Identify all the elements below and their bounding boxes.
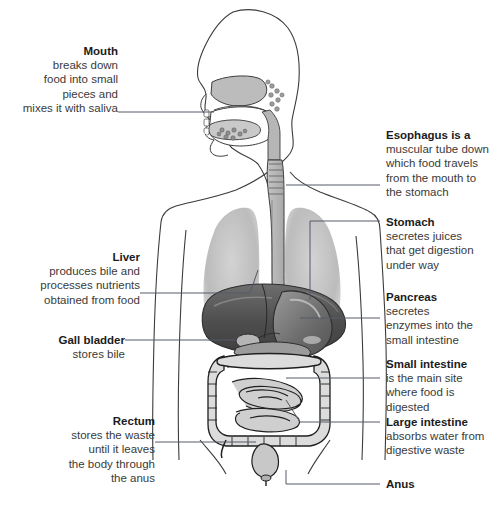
- callout-pancreas-line-3: small intestine: [386, 333, 501, 347]
- callout-mouth: Mouth breaks down food into small pieces…: [14, 44, 118, 115]
- callout-liver: Liver produces bile and processes nutrie…: [12, 250, 140, 307]
- anus: [261, 475, 271, 486]
- callout-large-intestine-line-2: digestive waste: [386, 443, 503, 457]
- callout-gall-bladder: Gall bladder stores bile: [12, 333, 125, 361]
- callout-stomach-line-2: that get digestion: [386, 243, 501, 257]
- callout-liver-line-3: obtained from food: [12, 293, 140, 307]
- callout-liver-line-1: produces bile and: [12, 264, 140, 278]
- callout-rectum-line-2: until it leaves: [12, 442, 155, 456]
- leader-anus: [286, 470, 380, 484]
- callout-rectum-line-3: the body through: [12, 457, 155, 471]
- callout-gall-bladder-title: Gall bladder: [12, 333, 125, 347]
- callout-esophagus-title: Esophagus is a: [386, 128, 501, 142]
- callout-small-intestine-line-2: where food is: [386, 385, 501, 399]
- callout-esophagus: Esophagus is a muscular tube down which …: [386, 128, 501, 199]
- callout-stomach-line-1: secretes juices: [386, 229, 501, 243]
- callout-liver-line-2: processes nutrients: [12, 278, 140, 292]
- callout-liver-title: Liver: [12, 250, 140, 264]
- callout-pancreas-title: Pancreas: [386, 290, 501, 304]
- diagram-canvas: Mouth breaks down food into small pieces…: [0, 0, 503, 507]
- callout-large-intestine-line-1: absorbs water from: [386, 429, 503, 443]
- callout-small-intestine: Small intestine is the main site where f…: [386, 357, 501, 414]
- callout-large-intestine: Large intestine absorbs water from diges…: [386, 415, 503, 458]
- callout-small-intestine-title: Small intestine: [386, 357, 501, 371]
- callout-mouth-title: Mouth: [14, 44, 118, 58]
- figure-caption: [0, 489, 503, 507]
- callout-small-intestine-line-3: digested: [386, 400, 501, 414]
- callout-stomach: Stomach secretes juices that get digesti…: [386, 215, 501, 272]
- callout-esophagus-line-4: the stomach: [386, 185, 501, 199]
- callout-large-intestine-title: Large intestine: [386, 415, 503, 429]
- callout-rectum-title: Rectum: [12, 414, 155, 428]
- callout-small-intestine-line-1: is the main site: [386, 371, 501, 385]
- callout-mouth-line-1: breaks down: [14, 58, 118, 72]
- callout-esophagus-line-1: muscular tube down: [386, 142, 501, 156]
- callout-pancreas-line-1: secretes: [386, 304, 501, 318]
- callout-mouth-line-4: mixes it with saliva: [14, 101, 118, 115]
- callout-esophagus-line-2: which food travels: [386, 156, 501, 170]
- small-intestine: [232, 378, 302, 431]
- callout-rectum-line-4: the anus: [12, 471, 155, 485]
- callout-gall-bladder-line-1: stores bile: [12, 347, 125, 361]
- callout-esophagus-line-3: from the mouth to: [386, 171, 501, 185]
- callout-rectum: Rectum stores the waste until it leaves …: [12, 414, 155, 485]
- callout-stomach-title: Stomach: [386, 215, 501, 229]
- callout-pancreas-line-2: enzymes into the: [386, 318, 501, 332]
- callout-mouth-line-3: pieces and: [14, 87, 118, 101]
- callout-rectum-line-1: stores the waste: [12, 428, 155, 442]
- callout-pancreas: Pancreas secretes enzymes into the small…: [386, 290, 501, 347]
- rectum: [252, 444, 279, 478]
- callout-mouth-line-2: food into small: [14, 72, 118, 86]
- callout-stomach-line-3: under way: [386, 258, 501, 272]
